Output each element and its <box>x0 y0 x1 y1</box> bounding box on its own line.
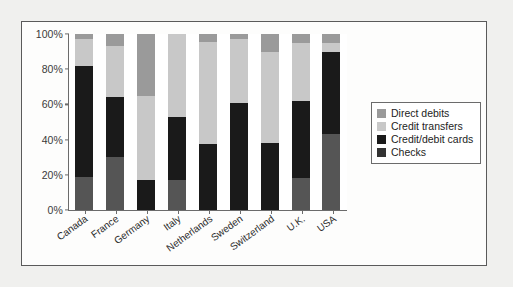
bar-column <box>137 34 155 210</box>
bar-segment <box>322 34 340 43</box>
x-axis-tick-mark <box>147 210 148 214</box>
bar-segment <box>322 52 340 135</box>
bar-segment <box>106 97 124 157</box>
legend-item-label: Credit transfers <box>391 120 463 133</box>
bar-column <box>106 34 124 210</box>
bar-segment <box>199 34 217 42</box>
bar-segment <box>292 43 310 101</box>
bar-segment <box>261 143 279 210</box>
bar-segment <box>230 103 248 210</box>
legend-item-label: Credit/debit cards <box>391 133 473 146</box>
bar-segment <box>261 52 279 144</box>
bar-column <box>230 34 248 210</box>
bar-segment <box>137 34 155 96</box>
bar-segment <box>106 34 124 46</box>
legend-item-label: Direct debits <box>391 107 449 120</box>
y-axis-tick-mark <box>65 69 69 70</box>
legend-item: Credit/debit cards <box>377 133 473 146</box>
bar-segment <box>168 34 186 117</box>
legend-swatch-icon <box>377 148 386 157</box>
bar-segment <box>292 34 310 43</box>
plot-area: 0%20%40%60%80%100%CanadaFranceGermanyIta… <box>68 34 347 211</box>
chart-frame: 0%20%40%60%80%100%CanadaFranceGermanyIta… <box>21 21 487 266</box>
y-axis-tick-mark <box>65 139 69 140</box>
y-axis-tick-mark <box>65 174 69 175</box>
y-axis-tick-mark <box>65 33 69 34</box>
x-axis-tick-mark <box>240 210 241 214</box>
y-axis-tick-label: 100% <box>36 28 69 40</box>
bar-segment <box>322 43 340 52</box>
legend-swatch-icon <box>377 122 386 131</box>
bar-segment <box>75 39 93 65</box>
x-axis-tick-mark <box>302 210 303 214</box>
bar-column <box>75 34 93 210</box>
bar-segment <box>106 157 124 210</box>
x-axis-tick-label: Canada <box>55 213 90 242</box>
legend-swatch-icon <box>377 109 386 118</box>
x-axis-tick-mark <box>178 210 179 214</box>
x-axis-tick-mark <box>116 210 117 214</box>
legend-item: Credit transfers <box>377 120 473 133</box>
y-axis-tick-mark <box>65 104 69 105</box>
bar-segment <box>106 46 124 97</box>
bar-segment <box>75 177 93 210</box>
x-axis-tick-mark <box>85 210 86 214</box>
bar-segment <box>322 134 340 210</box>
bar-segment <box>137 180 155 210</box>
bar-segment <box>230 39 248 102</box>
bar-column <box>292 34 310 210</box>
bar-segment <box>199 144 217 210</box>
bar-segment <box>168 117 186 180</box>
figure-root: 0%20%40%60%80%100%CanadaFranceGermanyIta… <box>0 0 513 287</box>
x-axis-tick-label: U.K. <box>285 213 307 233</box>
x-axis-tick-label: USA <box>315 213 338 234</box>
bar-column <box>199 34 217 210</box>
bar-segment <box>168 180 186 210</box>
legend-item: Direct debits <box>377 107 473 120</box>
legend-item: Checks <box>377 146 473 159</box>
bar-column <box>322 34 340 210</box>
bar-segment <box>292 178 310 210</box>
bar-segment <box>75 66 93 177</box>
x-axis-tick-label: Italy <box>162 213 183 233</box>
chart-legend: Direct debitsCredit transfersCredit/debi… <box>371 102 481 164</box>
bar-segment <box>292 101 310 178</box>
bars-layer <box>69 34 347 210</box>
bar-column <box>168 34 186 210</box>
bar-column <box>261 34 279 210</box>
bar-segment <box>137 96 155 180</box>
bar-segment <box>261 34 279 52</box>
legend-item-label: Checks <box>391 146 426 159</box>
bar-segment <box>199 42 217 144</box>
legend-swatch-icon <box>377 135 386 144</box>
y-axis-tick-mark <box>65 209 69 210</box>
